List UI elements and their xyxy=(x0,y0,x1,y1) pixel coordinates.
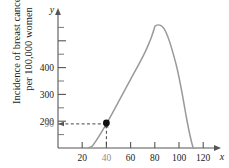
x-tick-label-80: 80 xyxy=(150,153,160,163)
x-tick-label-100: 100 xyxy=(172,153,187,163)
x-tick-label-40: 40 xyxy=(102,153,112,163)
y-axis-arrow-icon xyxy=(55,8,61,15)
y-tick-label-400: 400 xyxy=(40,63,55,73)
y-axis-minor-ticks xyxy=(58,27,64,134)
data-point-marker xyxy=(103,120,110,127)
x-tick-label-120: 120 xyxy=(196,153,211,163)
x-tick-label-20: 20 xyxy=(77,153,87,163)
y-tick-label-90: 90 xyxy=(45,119,55,129)
x-axis-name: x xyxy=(219,151,225,162)
x-axis-major-ticks xyxy=(82,142,203,148)
plot-canvas: 200 300 400 90 20 40 60 80 100 120 y x xyxy=(0,0,229,168)
guide-arrow-left-icon xyxy=(59,122,65,127)
incidence-curve xyxy=(88,25,193,148)
y-tick-label-300: 300 xyxy=(40,90,55,100)
y-axis-name: y xyxy=(49,4,55,15)
x-tick-label-60: 60 xyxy=(126,153,136,163)
breast-cancer-incidence-figure: Incidence of breast cancer per 100,000 w… xyxy=(0,0,229,168)
